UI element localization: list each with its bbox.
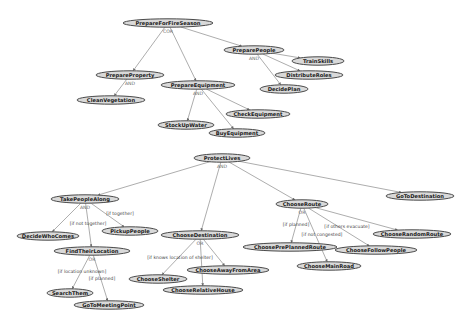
operator-label: AND xyxy=(125,81,136,86)
edge-protect-lives-to-take-people-along xyxy=(98,162,210,195)
node-label: GoToDestination xyxy=(396,193,444,199)
node-check-equipment[interactable]: CheckEquipment xyxy=(226,110,290,119)
node-decide-plan[interactable]: DecidePlan xyxy=(260,85,308,93)
operator-label: AND xyxy=(80,205,91,210)
node-label: ChooseRelativeHouse xyxy=(171,287,235,293)
edge-take-people-along-to-decide-who-comes xyxy=(52,203,81,232)
node-pickup-people[interactable]: PickupPeople xyxy=(102,227,158,236)
condition-label: [if planned] xyxy=(89,276,116,281)
node-find-their-location[interactable]: FindTheirLocationOR xyxy=(54,247,130,262)
condition-label: [if others evacuate] xyxy=(324,224,369,229)
node-choose-destination[interactable]: ChooseDestinationOR xyxy=(161,231,239,246)
node-go-to-meeting-point[interactable]: GoToMeetingPoint xyxy=(74,301,144,310)
node-choose-pre-planned-route[interactable]: ChoosePrePlannedRoute xyxy=(243,243,337,251)
node-prepare-property[interactable]: PreparePropertyAND xyxy=(96,71,164,86)
node-label: ChooseShelter xyxy=(137,276,180,282)
node-label: PrepareForFireSeason xyxy=(135,20,200,27)
node-label: PrepareEquipment xyxy=(171,82,226,89)
node-label: DecideWhoComes xyxy=(22,233,74,239)
operator-label: AND xyxy=(249,56,260,61)
node-label: PreparePeople xyxy=(232,47,276,54)
edge-protect-lives-to-choose-destination xyxy=(201,162,221,231)
node-choose-shelter[interactable]: ChooseShelter xyxy=(129,275,187,283)
edge-choose-destination-to-choose-relative-house xyxy=(200,239,203,286)
node-choose-main-road[interactable]: ChooseMainRoad xyxy=(297,262,361,270)
node-label: ChooseRandomRoute xyxy=(381,231,444,237)
node-label: TakePeopleAlong xyxy=(60,196,110,203)
node-distribute-roles[interactable]: DistributeRoles xyxy=(275,71,343,79)
node-clean-vegetation[interactable]: CleanVegetation xyxy=(77,96,145,105)
node-buy-equipment[interactable]: BuyEquipment xyxy=(209,129,265,138)
node-train-skills[interactable]: TrainSkills xyxy=(292,57,344,65)
node-protect-lives[interactable]: ProtectLivesAND xyxy=(194,154,250,169)
node-prepare-for-fire-season[interactable]: PrepareForFireSeasonCOR xyxy=(123,19,213,34)
edge-prepare-for-fire-season-to-prepare-equipment xyxy=(170,27,196,81)
node-prepare-people[interactable]: PreparePeopleAND xyxy=(224,46,284,61)
node-label: DistributeRoles xyxy=(286,72,331,78)
node-label: CheckEquipment xyxy=(233,111,283,118)
node-choose-follow-people[interactable]: ChooseFollowPeople xyxy=(335,246,417,255)
condition-label: [if planned] xyxy=(283,222,310,227)
node-choose-relative-house[interactable]: ChooseRelativeHouse xyxy=(163,286,243,294)
operator-label: OR xyxy=(197,241,205,246)
edge-choose-destination-to-choose-away-from-area xyxy=(203,239,224,266)
node-search-them[interactable]: SearchThem xyxy=(47,289,93,297)
edge-prepare-equipment-to-check-equipment xyxy=(207,89,250,110)
edge-protect-lives-to-choose-route xyxy=(229,162,295,200)
node-choose-away-from-area[interactable]: ChooseAwayFromArea xyxy=(187,266,269,275)
node-stock-up-water[interactable]: StockUpWater xyxy=(158,121,214,130)
node-prepare-equipment[interactable]: PrepareEquipmentAND xyxy=(161,81,235,96)
condition-label: [if not together] xyxy=(70,221,107,226)
condition-label: [if knows location of shelter] xyxy=(147,255,213,260)
node-label: PrepareProperty xyxy=(106,72,155,79)
operator-label: AND xyxy=(193,91,204,96)
edge-prepare-for-fire-season-to-prepare-people xyxy=(181,27,242,46)
node-label: ChoosePrePlannedRoute xyxy=(254,244,327,250)
node-choose-route[interactable]: ChooseRouteOR xyxy=(276,200,328,215)
node-label: ChooseAwayFromArea xyxy=(195,267,261,274)
node-label: ChooseMainRoad xyxy=(304,263,354,269)
node-label: GoToMeetingPoint xyxy=(82,302,136,309)
node-label: PickupPeople xyxy=(110,228,150,235)
node-label: ProtectLives xyxy=(204,155,241,161)
node-decide-who-comes[interactable]: DecideWhoComes xyxy=(17,232,79,240)
node-label: CleanVegetation xyxy=(87,97,136,104)
node-label: ChooseFollowPeople xyxy=(346,247,406,254)
condition-label: [if location unknown] xyxy=(58,269,107,274)
operator-label: OR xyxy=(89,257,97,262)
node-label: ChooseRoute xyxy=(283,201,322,207)
node-label: DecidePlan xyxy=(268,86,301,92)
node-label: FindTheirLocation xyxy=(66,248,119,254)
node-label: StockUpWater xyxy=(165,122,207,129)
node-label: TrainSkills xyxy=(303,58,333,64)
operator-label: AND xyxy=(217,164,228,169)
nodes-layer: PrepareForFireSeasonCORPreparePeopleANDP… xyxy=(17,19,454,310)
edge-prepare-people-to-train-skills xyxy=(273,53,300,58)
edge-prepare-people-to-decide-plan xyxy=(257,54,281,85)
node-label: SearchThem xyxy=(52,290,88,296)
condition-label: [if together] xyxy=(106,211,134,216)
node-take-people-along[interactable]: TakePeopleAlongAND xyxy=(51,195,119,210)
node-go-to-destination[interactable]: GoToDestination xyxy=(386,192,454,200)
node-choose-random-route[interactable]: ChooseRandomRoute xyxy=(373,230,451,238)
condition-label: [if not congested] xyxy=(302,232,343,237)
goal-tree-diagram: [if together][if not together][if locati… xyxy=(0,0,476,329)
operator-label: OR xyxy=(299,210,307,215)
node-label: BuyEquipment xyxy=(216,130,259,137)
edge-prepare-for-fire-season-to-prepare-property xyxy=(133,27,165,71)
edge-protect-lives-to-go-to-destination xyxy=(239,161,401,192)
operator-label: COR xyxy=(163,29,174,34)
node-label: ChooseDestination xyxy=(172,232,227,238)
